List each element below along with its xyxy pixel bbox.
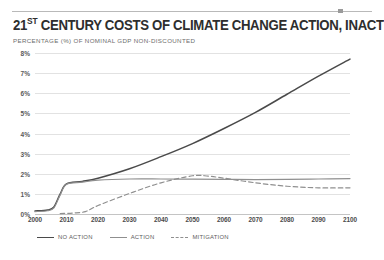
page-title-number: 21 [13,17,27,33]
header-divider-tick [338,9,343,13]
series-line-mitigation [60,175,350,213]
x-axis-tick-label: 2030 [122,216,136,223]
x-axis-tick-label: 2090 [311,216,325,223]
x-axis-tick-label: 2100 [343,216,357,223]
legend-label: ACTION [131,234,155,240]
series-line-action [35,179,350,212]
legend-item-mitigation[interactable]: MITIGATION [171,234,228,240]
x-axis-tick-label: 2060 [217,216,231,223]
legend-swatch-icon [110,237,127,238]
y-axis-tick-label: 5% [21,110,30,117]
x-axis-tick-label: 2040 [154,216,168,223]
page-title-ordinal: ST [27,16,37,26]
y-axis-tick-label: 1% [21,190,30,197]
x-axis-tick-label: 2080 [280,216,294,223]
y-axis-tick-label: 4% [21,130,30,137]
x-axis-tick-label: 2050 [185,216,199,223]
x-axis-tick-label: 2070 [248,216,262,223]
chart-subtitle: PERCENTAGE (%) OF NOMINAL GDP NON-DISCOU… [13,37,195,44]
legend-swatch-icon [171,237,188,238]
series-lines [35,53,350,214]
y-axis-tick-label: 3% [21,150,30,157]
gridline [35,214,350,215]
x-axis-tick-label: 2000 [28,216,42,223]
series-line-no-action [35,59,350,211]
legend-label: NO ACTION [58,234,93,240]
page-title: 21ST CENTURY COSTS OF CLIMATE CHANGE ACT… [13,16,384,33]
y-axis-tick-label: 2% [21,170,30,177]
chart-legend: NO ACTIONACTIONMITIGATION [37,234,229,240]
header-divider [12,11,372,12]
x-axis-tick-label: 2010 [59,216,73,223]
legend-item-no-action[interactable]: NO ACTION [37,234,93,240]
chart-container: 21ST CENTURY COSTS OF CLIMATE CHANGE ACT… [0,0,384,260]
y-axis-tick-label: 7% [21,70,30,77]
y-axis-tick-label: 8% [21,50,30,57]
legend-swatch-icon [37,237,54,238]
page-title-rest: CENTURY COSTS OF CLIMATE CHANGE ACTION, … [37,17,384,33]
x-axis-tick-label: 2020 [91,216,105,223]
legend-item-action[interactable]: ACTION [110,234,155,240]
plot-area: 0%1%2%3%4%5%6%7%8% 200020102020203020402… [35,53,350,214]
y-axis-tick-label: 6% [21,90,30,97]
legend-label: MITIGATION [192,234,228,240]
